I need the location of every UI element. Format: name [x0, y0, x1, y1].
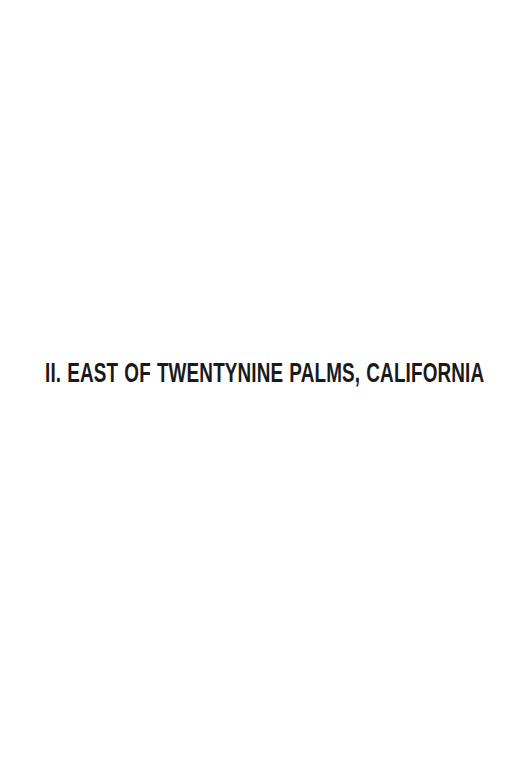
- page-title: II. EAST OF TWENTYNINE PALMS, CALIFORNIA: [45, 358, 353, 388]
- part-title-block: II. EAST OF TWENTYNINE PALMS, CALIFORNIA: [45, 358, 485, 388]
- page-canvas: II. EAST OF TWENTYNINE PALMS, CALIFORNIA: [0, 0, 530, 765]
